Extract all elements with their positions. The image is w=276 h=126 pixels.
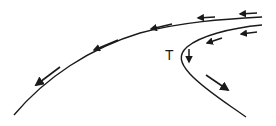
lower-branch-arrow bbox=[206, 75, 228, 90]
flow-diagram bbox=[0, 0, 276, 126]
turning-point-label: T bbox=[165, 48, 174, 62]
inner-arrow-2 bbox=[207, 38, 222, 43]
outer-arrow-middle bbox=[94, 40, 118, 50]
inner-arrow-1 bbox=[241, 32, 257, 34]
upper-arrow-2 bbox=[198, 17, 215, 18]
upper-arrow-3 bbox=[240, 13, 257, 14]
diagram-canvas: T bbox=[0, 0, 276, 126]
